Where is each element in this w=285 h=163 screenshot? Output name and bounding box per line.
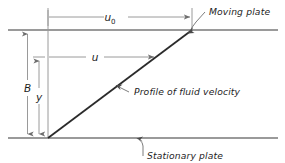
gap-label-B: B [24,82,31,94]
stationary-plate-leader [136,136,143,156]
profile-label: Profile of fluid velocity [134,86,241,97]
velocity-profile-figure: u0 u B y Moving plate Stationary plate P… [0,0,285,163]
u-label: u [92,51,99,63]
stationary-plate-label: Stationary plate [147,150,223,161]
u-zero-label: u0 [104,11,115,26]
u-zero-dimension [48,8,190,26]
fluid-velocity-profile-line [48,30,192,138]
diagram-canvas: u0 u B y Moving plate Stationary plate P… [0,0,285,163]
profile-label-leader [116,85,129,92]
moving-plate-label: Moving plate [209,6,270,17]
height-label-y: y [35,91,43,103]
